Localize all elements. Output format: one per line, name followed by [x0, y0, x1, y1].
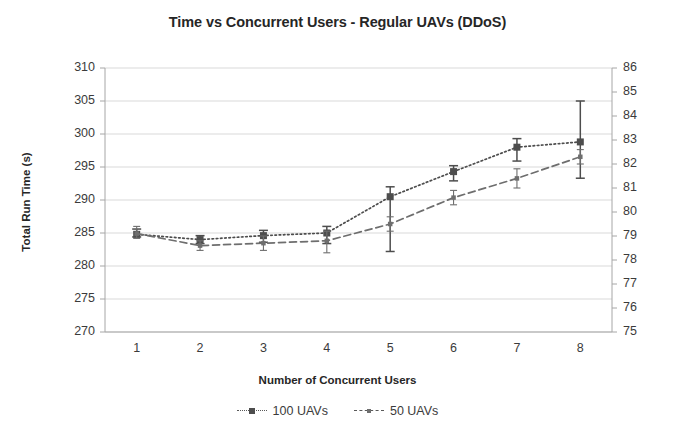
data-point-marker: [325, 239, 330, 244]
data-point-marker: [513, 144, 520, 151]
data-point-marker: [198, 243, 203, 248]
legend-label-50-uavs: 50 UAVs: [390, 404, 438, 418]
legend-item-100-uavs[interactable]: 100 UAVs: [237, 404, 328, 418]
series-line-0: [137, 142, 581, 240]
gridlines: [105, 68, 612, 332]
plot-canvas: [0, 0, 675, 448]
chart-container: Time vs Concurrent Users - Regular UAVs …: [0, 0, 675, 448]
data-point-marker: [134, 231, 139, 236]
data-point-marker: [577, 138, 584, 145]
data-point-marker: [515, 176, 520, 181]
data-point-marker: [261, 241, 266, 246]
data-series: [132, 101, 585, 253]
legend-marker-dashed-square-icon: [354, 405, 384, 417]
data-point-marker: [388, 222, 393, 227]
data-point-marker: [450, 168, 457, 175]
data-point-marker: [387, 193, 394, 200]
data-point-marker: [451, 195, 456, 200]
series-line-1: [137, 157, 581, 246]
legend-item-50-uavs[interactable]: 50 UAVs: [354, 404, 438, 418]
chart-legend: 100 UAVs 50 UAVs: [0, 404, 675, 418]
legend-marker-dotted-square-icon: [237, 405, 267, 417]
legend-label-100-uavs: 100 UAVs: [273, 404, 328, 418]
data-point-marker: [578, 155, 583, 160]
